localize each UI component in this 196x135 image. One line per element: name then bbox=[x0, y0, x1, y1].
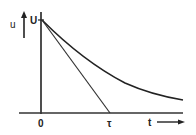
initial-value-label: U bbox=[30, 15, 37, 26]
origin-label: 0 bbox=[38, 118, 44, 129]
tangent-line bbox=[42, 20, 110, 113]
decay-curve bbox=[42, 20, 183, 100]
up-arrow-icon bbox=[21, 11, 27, 18]
right-arrow-icon bbox=[178, 120, 185, 125]
time-constant-label: τ bbox=[107, 118, 112, 129]
decay-diagram: u U 0 τ t bbox=[0, 0, 196, 135]
x-axis-label: t bbox=[148, 117, 152, 128]
y-axis-label: u bbox=[10, 19, 16, 30]
